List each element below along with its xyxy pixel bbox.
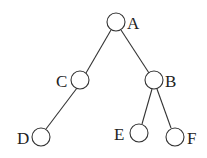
node-c-label: C — [56, 72, 67, 91]
edge-c-d — [46, 88, 77, 129]
node-d-label: D — [17, 129, 29, 148]
edge-b-e — [142, 89, 152, 124]
node-d-circle — [32, 128, 50, 146]
node-e: E — [114, 124, 148, 144]
node-b-label: B — [165, 72, 176, 91]
edge-b-f — [157, 89, 171, 128]
node-c-circle — [71, 71, 89, 89]
node-a: A — [107, 13, 140, 33]
node-a-label: A — [127, 14, 140, 33]
node-f-circle — [166, 128, 184, 146]
node-e-circle — [130, 124, 148, 142]
node-f: F — [166, 128, 196, 148]
node-d: D — [17, 128, 50, 148]
tree-diagram: A C B D E F — [0, 0, 207, 158]
node-c: C — [56, 71, 89, 91]
node-a-circle — [107, 13, 125, 31]
node-b-circle — [145, 71, 163, 89]
edge-a-b — [121, 30, 149, 73]
edge-a-c — [86, 30, 111, 73]
node-b: B — [145, 71, 176, 91]
node-f-label: F — [187, 129, 196, 148]
node-e-label: E — [114, 125, 124, 144]
